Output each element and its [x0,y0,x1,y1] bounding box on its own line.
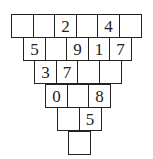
pyramid-cell[interactable]: 9 [66,37,89,61]
pyramid-cell[interactable] [67,84,90,108]
pyramid-row-5: 5 [57,107,100,131]
pyramid-cell[interactable]: 2 [54,14,77,38]
pyramid-cell[interactable]: 5 [23,37,46,61]
pyramid-cell[interactable] [119,14,142,38]
pyramid-cell[interactable]: 7 [109,37,132,61]
pyramid-cell[interactable]: 8 [88,84,111,108]
pyramid-cell[interactable] [11,14,34,38]
pyramid-row-1: 2 4 [11,14,140,38]
pyramid-cell[interactable]: 0 [45,84,68,108]
pyramid-row-6 [68,131,90,155]
pyramid-cell[interactable] [76,14,99,38]
pyramid-row-3: 3 7 [34,60,120,84]
pyramid-cell[interactable]: 5 [79,107,102,131]
pyramid-row-2: 5 9 1 7 [23,37,131,61]
pyramid-cell[interactable] [77,60,100,84]
number-pyramid: 2 4 5 9 1 7 3 7 0 8 5 [0,0,153,159]
pyramid-cell[interactable] [45,37,68,61]
pyramid-cell[interactable]: 7 [56,60,79,84]
pyramid-cell[interactable] [68,131,91,155]
pyramid-row-4: 0 8 [45,84,110,108]
pyramid-cell[interactable] [33,14,56,38]
pyramid-cell[interactable] [99,60,122,84]
pyramid-cell[interactable]: 1 [88,37,111,61]
pyramid-cell[interactable]: 4 [97,14,120,38]
pyramid-cell[interactable] [57,107,80,131]
pyramid-cell[interactable]: 3 [34,60,57,84]
